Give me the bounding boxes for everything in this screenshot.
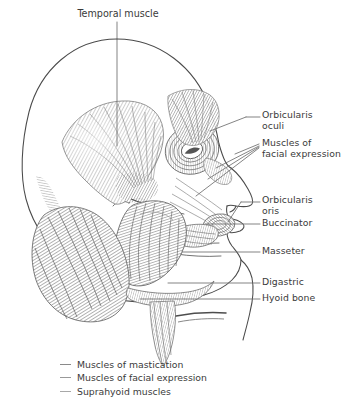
neck-muscles xyxy=(32,207,129,322)
label-digastric: Digastric xyxy=(262,277,304,288)
temporal-muscle xyxy=(62,101,163,205)
label-buccinator: Buccinator xyxy=(262,218,312,229)
legend: Muscles of mastication Muscles of facial… xyxy=(60,358,310,398)
legend-label: Muscles of facial expression xyxy=(77,372,207,383)
legend-label: Muscles of mastication xyxy=(77,359,183,370)
suprahyoid-muscles xyxy=(126,281,226,366)
legend-dash-icon xyxy=(60,377,71,378)
legend-dash-icon xyxy=(60,391,71,392)
label-masseter: Masseter xyxy=(262,246,305,257)
legend-item-muscles-of-mastication: Muscles of mastication xyxy=(60,358,310,371)
label-hyoid-bone: Hyoid bone xyxy=(262,293,315,304)
legend-label: Suprahyoid muscles xyxy=(77,386,171,397)
legend-item-suprahyoid-muscles: Suprahyoid muscles xyxy=(60,385,310,398)
label-orbicularis-oris: Orbicularis oris xyxy=(262,195,313,216)
label-orbicularis-oculi: Orbicularis oculi xyxy=(262,110,313,131)
legend-item-muscles-of-facial-expression: Muscles of facial expression xyxy=(60,371,310,384)
label-muscles-of-facial-expression: Muscles of facial expression xyxy=(262,138,341,159)
page-title: Temporal muscle xyxy=(0,8,236,19)
legend-dash-icon xyxy=(60,364,71,365)
